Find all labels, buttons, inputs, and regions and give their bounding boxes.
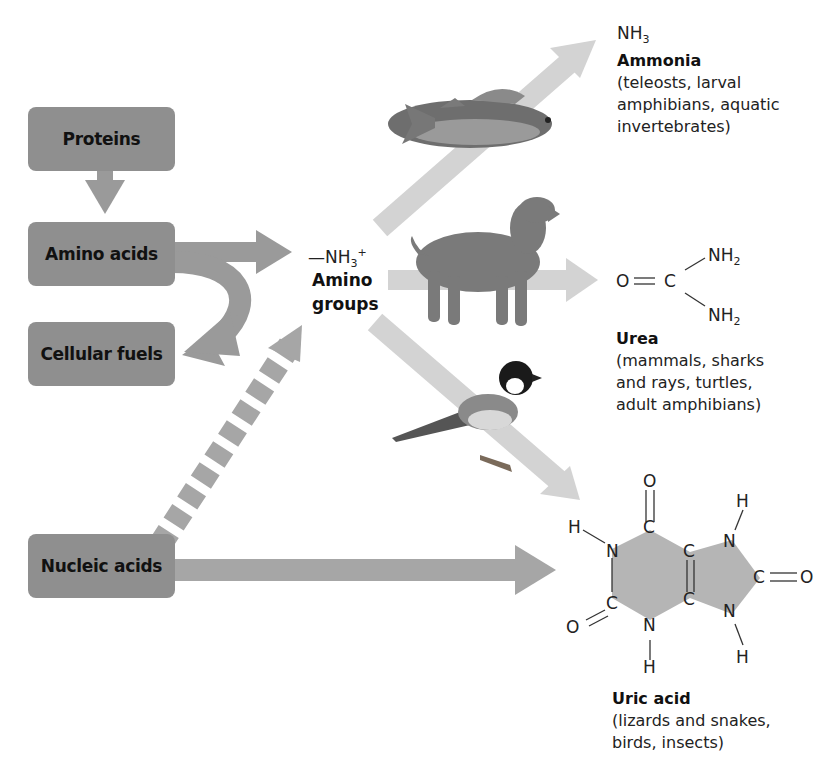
- uric-H-left: H: [568, 516, 581, 538]
- urea-name: Urea: [616, 328, 764, 350]
- cellular-fuels-box: Cellular fuels: [28, 322, 175, 386]
- amino-groups-label: Amino groups: [312, 268, 379, 316]
- uric-C1: C: [643, 516, 655, 538]
- uric-O-top: O: [643, 470, 656, 492]
- arrow-nucleic-acids-to-amino-groups: [160, 325, 302, 545]
- ammonia-formula: NH3: [617, 22, 650, 51]
- nucleic-acids-label: Nucleic acids: [41, 556, 162, 576]
- uric-N4: N: [723, 600, 736, 622]
- uric-N3: N: [723, 530, 736, 552]
- uric-acid-name: Uric acid: [612, 688, 771, 710]
- uric-N2: N: [643, 614, 656, 636]
- urea-block: Urea (mammals, sharks and rays, turtles,…: [616, 328, 764, 416]
- ammonia-name: Ammonia: [617, 50, 780, 72]
- uric-H-topright: H: [736, 490, 749, 512]
- uric-H-bottom: H: [643, 656, 656, 678]
- amino-acids-label: Amino acids: [45, 244, 158, 264]
- uric-H-bottomright: H: [736, 646, 749, 668]
- amino-acids-box: Amino acids: [28, 222, 175, 286]
- urea-nh2-top: NH2: [708, 244, 741, 273]
- proteins-label: Proteins: [63, 129, 141, 149]
- urea-O: O: [616, 270, 629, 292]
- uric-acid-block: Uric acid (lizards and snakes, birds, in…: [612, 688, 771, 754]
- ammonia-block: Ammonia (teleosts, larval amphibians, aq…: [617, 50, 780, 138]
- uric-O-left: O: [566, 616, 579, 638]
- uric-N1: N: [606, 540, 619, 562]
- urea-C: C: [664, 270, 676, 292]
- uric-C3: C: [606, 592, 618, 614]
- arrow-amino-acids-to-cellular-fuels: [172, 262, 240, 366]
- uric-acid-structure: [583, 490, 797, 660]
- proteins-box: Proteins: [28, 107, 175, 171]
- nucleic-acids-box: Nucleic acids: [28, 534, 175, 598]
- arrow-nucleic-acids-to-uric-acid: [165, 545, 556, 595]
- uric-C4: C: [683, 588, 695, 610]
- cellular-fuels-label: Cellular fuels: [40, 344, 162, 364]
- dog-illustration: [411, 197, 560, 326]
- uric-C2: C: [683, 540, 695, 562]
- uric-O-right: O: [800, 566, 813, 588]
- uric-C5: C: [753, 566, 765, 588]
